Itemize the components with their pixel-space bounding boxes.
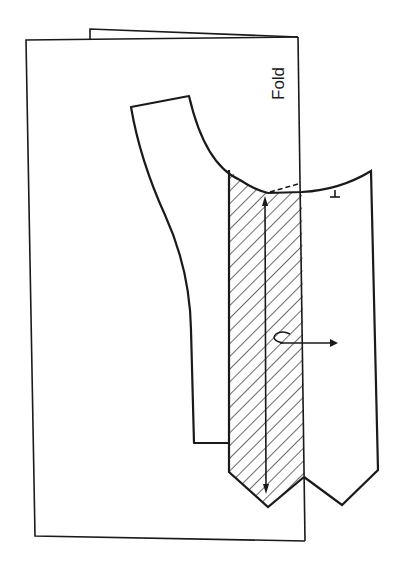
fold-label: Fold xyxy=(270,67,287,100)
pattern-layout-diagram xyxy=(0,0,406,578)
dashed-seam-line xyxy=(270,184,298,192)
notch-mark xyxy=(330,190,340,197)
hatched-facing-strip xyxy=(200,150,320,530)
